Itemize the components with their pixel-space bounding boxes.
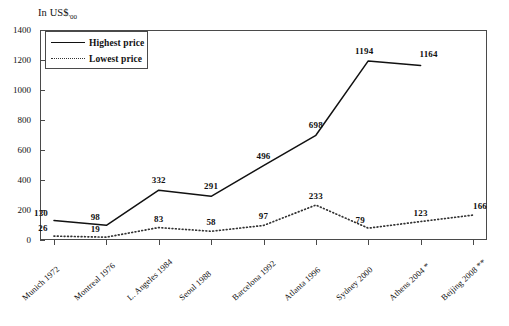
- legend-item-highest-price: Highest price: [51, 36, 144, 50]
- data-value-label: 291: [204, 181, 218, 191]
- data-value-label: 83: [154, 214, 163, 224]
- data-value-label: 123: [414, 208, 428, 218]
- chart-legend: Highest price Lowest price: [45, 31, 148, 69]
- data-value-label: 79: [356, 215, 365, 225]
- data-value-label: 698: [309, 120, 323, 130]
- legend-label-lowest-price: Lowest price: [89, 54, 142, 64]
- x-axis-category-label: Barcelona 1992: [230, 258, 278, 302]
- x-axis-category-label: Seoul 1988: [177, 269, 213, 303]
- unit-title-main: In US$: [38, 7, 69, 18]
- data-value-label: 496: [256, 151, 270, 161]
- legend-item-lowest-price: Lowest price: [51, 52, 142, 66]
- y-axis-tick-mark: [40, 240, 45, 241]
- data-value-label: 97: [259, 211, 268, 221]
- x-axis-category-label: Montreal 1976: [72, 260, 117, 302]
- legend-label-highest-price: Highest price: [89, 38, 144, 48]
- y-axis-tick-label: 800: [18, 115, 32, 125]
- data-value-label: 19: [91, 224, 100, 234]
- data-value-label: 98: [91, 212, 100, 222]
- x-axis-category-label: L. Angeles 1984: [125, 257, 174, 303]
- x-axis-category-label: Sydney 2000: [334, 264, 375, 302]
- data-value-label: 58: [206, 217, 215, 227]
- data-value-label: 130: [34, 208, 48, 218]
- legend-line-solid-icon: [51, 39, 85, 47]
- y-axis-tick-label: 400: [18, 175, 32, 185]
- data-value-label: 26: [38, 223, 47, 233]
- x-axis-tick-mark: [264, 240, 265, 245]
- y-axis-tick-label: 600: [18, 145, 32, 155]
- x-axis-tick-mark: [316, 240, 317, 245]
- data-value-label: 233: [309, 191, 323, 201]
- data-value-label: 166: [473, 201, 487, 211]
- x-axis-category-label: Beijing 2008 **: [439, 257, 488, 303]
- y-axis-tick-label: 200: [18, 205, 32, 215]
- x-axis-category-label: Athens 2004 *: [387, 261, 432, 303]
- unit-title-subscript: '00: [69, 13, 77, 21]
- y-axis: 0200400600800100012001400: [0, 0, 40, 326]
- x-axis-category-label: Atlanta 1996: [282, 265, 322, 303]
- x-axis-tick-mark: [54, 240, 55, 245]
- y-axis-tick-label: 1200: [13, 55, 31, 65]
- y-axis-tick-label: 1000: [13, 85, 31, 95]
- olympic-price-chart: In US$'00 0200400600800100012001400 Muni…: [0, 0, 509, 326]
- series-line-highest-price: [54, 61, 421, 225]
- legend-line-dotted-icon: [51, 55, 85, 63]
- data-value-label: 332: [152, 175, 166, 185]
- data-value-label: 1164: [419, 49, 437, 59]
- x-axis-tick-mark: [473, 240, 474, 245]
- x-axis-tick-mark: [106, 240, 107, 245]
- chart-unit-title: In US$'00: [38, 7, 77, 21]
- x-axis-tick-mark: [368, 240, 369, 245]
- x-axis-tick-mark: [211, 240, 212, 245]
- x-axis-tick-mark: [159, 240, 160, 245]
- y-axis-tick-label: 0: [27, 235, 32, 245]
- y-axis-tick-label: 1400: [13, 25, 31, 35]
- footnote-asterisk-icon: **: [473, 257, 488, 272]
- footnote-asterisk-icon: *: [420, 261, 432, 273]
- x-axis-tick-mark: [421, 240, 422, 245]
- data-value-label: 1194: [355, 46, 373, 56]
